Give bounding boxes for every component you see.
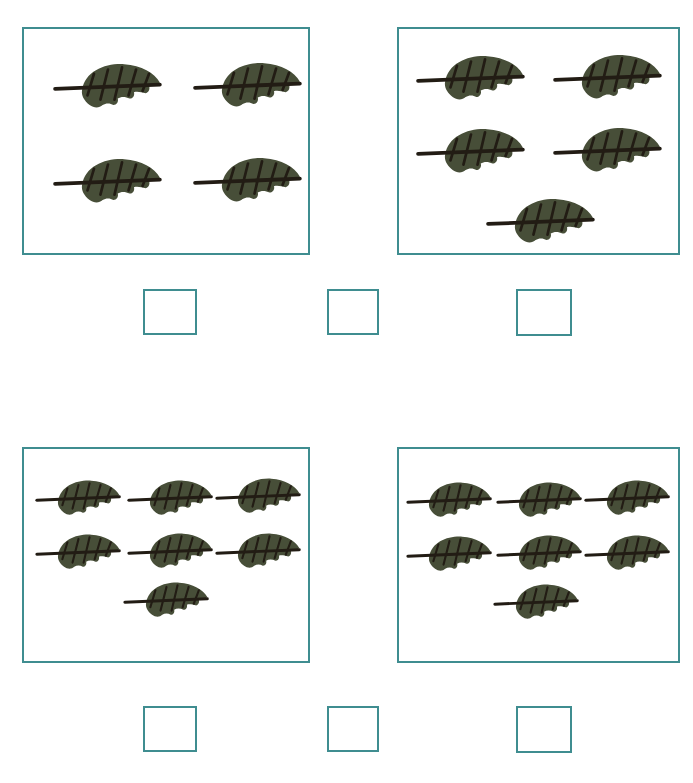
leaf-icon [494,583,579,627]
leaf-icon [407,535,492,579]
leaf-icon [36,533,121,577]
answer-box-3[interactable] [516,289,572,336]
worksheet-page [0,0,693,783]
group-box-4 [397,447,680,663]
answer-box-5[interactable] [327,706,379,752]
orange-arc-fragment [333,776,365,783]
group-box-1 [22,27,310,255]
answer-box-6[interactable] [516,706,572,753]
leaf-icon [497,481,582,525]
leaf-icon [417,54,525,110]
answer-box-1[interactable] [143,289,197,335]
leaf-icon [54,157,162,213]
leaf-icon [417,127,525,183]
leaf-icon [554,126,662,182]
answer-box-4[interactable] [143,706,197,752]
leaf-icon [128,479,213,523]
leaf-icon [487,197,595,253]
leaf-icon [585,479,670,523]
leaf-icon [585,534,670,578]
leaf-icon [407,481,492,525]
leaf-icon [216,532,301,576]
group-box-3 [22,447,310,663]
leaf-icon [497,534,582,578]
group-box-2 [397,27,680,255]
leaf-icon [554,53,662,109]
leaf-icon [194,61,302,117]
leaf-icon [128,532,213,576]
leaf-icon [36,479,121,523]
leaf-icon [194,156,302,212]
answer-box-2[interactable] [327,289,379,335]
leaf-icon [216,477,301,521]
leaf-icon [124,581,209,625]
leaf-icon [54,62,162,118]
